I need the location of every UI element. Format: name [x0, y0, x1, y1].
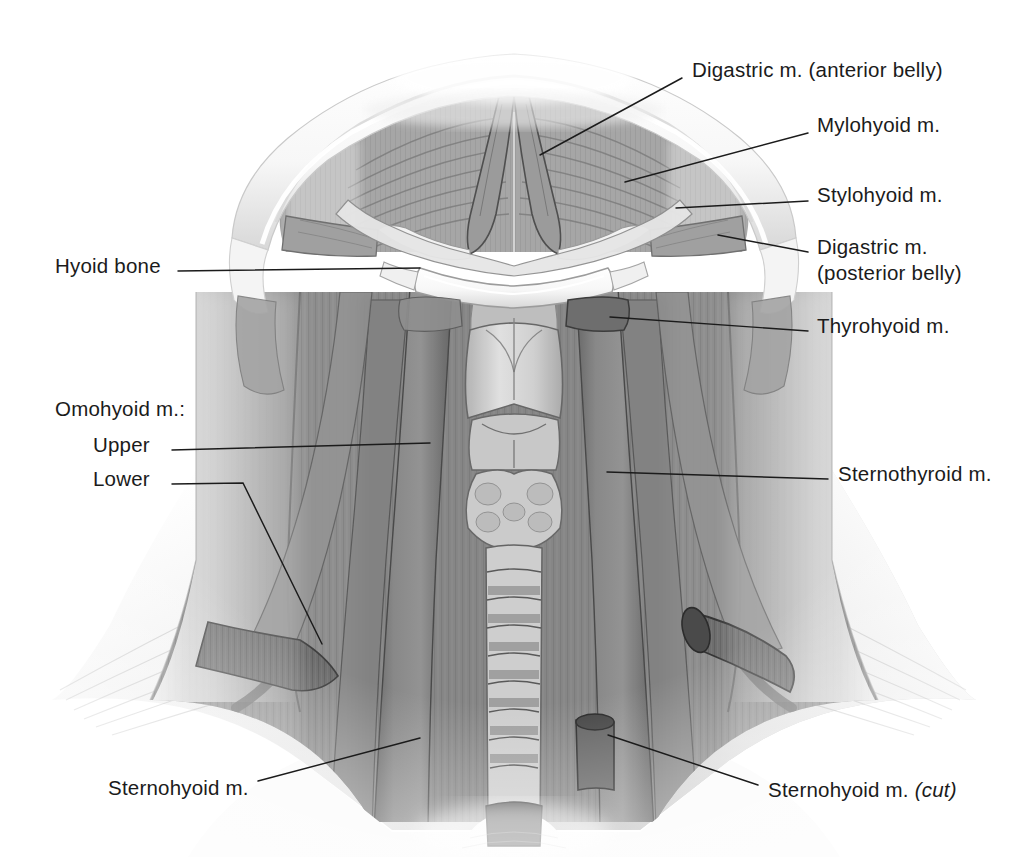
- label-text: Digastric m. (anterior belly): [692, 58, 943, 81]
- label-text: Sternohyoid m.: [768, 778, 915, 801]
- label-text: Mylohyoid m.: [817, 113, 940, 136]
- label-omohyoid-lower: Lower: [93, 466, 150, 492]
- label-digastric-anterior: Digastric m. (anterior belly): [692, 57, 943, 83]
- label-text: Upper: [93, 433, 150, 456]
- label-thyrohyoid: Thyrohyoid m.: [817, 313, 950, 339]
- label-text: Thyrohyoid m.: [817, 314, 950, 337]
- label-text-line2: (posterior belly): [817, 261, 962, 284]
- label-text: Hyoid bone: [55, 254, 161, 277]
- label-mylohyoid: Mylohyoid m.: [817, 112, 940, 138]
- label-sternohyoid: Sternohyoid m.: [108, 775, 249, 801]
- label-digastric-posterior: Digastric m.(posterior belly): [817, 234, 1027, 286]
- label-omohyoid-upper: Upper: [93, 432, 150, 458]
- anatomy-figure: Digastric m. (anterior belly)Mylohyoid m…: [0, 0, 1027, 857]
- label-text: Stylohyoid m.: [817, 183, 943, 206]
- label-hyoid-bone: Hyoid bone: [55, 253, 161, 279]
- label-omohyoid-group: Omohyoid m.:: [55, 396, 185, 422]
- label-text: Omohyoid m.:: [55, 397, 185, 420]
- label-text: Lower: [93, 467, 150, 490]
- label-text: Sternohyoid m.: [108, 776, 249, 799]
- label-text: Digastric m.: [817, 235, 928, 258]
- label-sternohyoid-cut: Sternohyoid m. (cut): [768, 777, 957, 803]
- label-text: Sternothyroid m.: [838, 462, 992, 485]
- label-stylohyoid: Stylohyoid m.: [817, 182, 943, 208]
- label-sternothyroid: Sternothyroid m.: [838, 461, 992, 487]
- label-text-italic: (cut): [915, 778, 957, 801]
